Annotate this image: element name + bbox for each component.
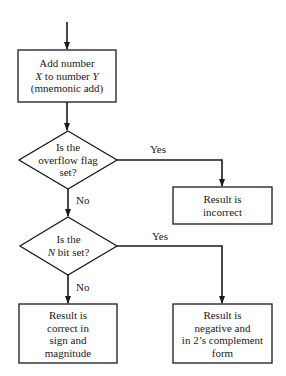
overflow-line-2: overflow flag [19, 154, 117, 167]
nbit-yes-arrow [117, 246, 222, 303]
add-line-1: Add number [18, 57, 116, 70]
flowchart-canvas: Add number X to number Y (mnemonic add) … [0, 0, 286, 376]
negative-line-3: in 2’s complement [173, 334, 272, 347]
overflow-yes-arrow [117, 160, 222, 186]
negative-line-2: negative and [173, 322, 272, 335]
var-n: N [48, 246, 55, 258]
negative-line-1: Result is [173, 309, 272, 322]
var-y: Y [93, 70, 99, 82]
incorrect-line-2: incorrect [173, 206, 272, 219]
overflow-line-1: Is the [19, 141, 117, 154]
nbit-decision-label: Is the N bit set? [20, 233, 117, 258]
add-line-2: X to number Y [18, 70, 116, 83]
add-line-3: (mnemonic add) [18, 82, 116, 95]
correct-line-1: Result is [19, 309, 117, 322]
incorrect-result-label: Result is incorrect [173, 193, 272, 218]
add-line-2-mid: to number [42, 70, 92, 82]
overflow-yes-label: Yes [150, 143, 166, 155]
nbit-no-label: No [76, 281, 89, 293]
correct-result-label: Result is correct in sign and magnitude [19, 309, 117, 359]
overflow-line-3: set? [19, 166, 117, 179]
overflow-no-label: No [76, 194, 89, 206]
overflow-decision-label: Is the overflow flag set? [19, 141, 117, 179]
nbit-yes-label: Yes [152, 230, 168, 242]
negative-line-4: form [173, 347, 272, 360]
correct-line-4: magnitude [19, 347, 117, 360]
nbit-line-2-rest: bit set? [55, 246, 89, 258]
nbit-line-1: Is the [20, 233, 117, 246]
correct-line-3: sign and [19, 334, 117, 347]
correct-line-2: correct in [19, 322, 117, 335]
nbit-line-2: N bit set? [20, 246, 117, 259]
negative-result-label: Result is negative and in 2’s complement… [173, 309, 272, 359]
add-process-label: Add number X to number Y (mnemonic add) [18, 57, 116, 95]
incorrect-line-1: Result is [173, 193, 272, 206]
